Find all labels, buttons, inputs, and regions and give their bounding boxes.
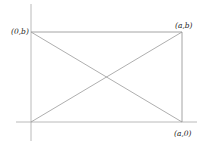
vertex-label-a-b: (a,b)	[175, 22, 193, 30]
vertex-label-a-0: (a,0)	[174, 130, 191, 138]
vertex-label-0-b: (0,b)	[11, 28, 29, 36]
diagram-canvas	[0, 0, 201, 143]
rectangle-diagram: (0,b) (a,b) (a,0)	[0, 0, 201, 143]
